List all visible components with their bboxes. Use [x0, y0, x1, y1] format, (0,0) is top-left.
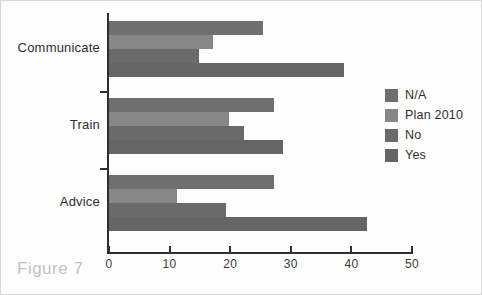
- bar-communicate-yes: [109, 63, 344, 77]
- legend-label: Yes: [405, 148, 426, 162]
- legend-swatch-icon: [385, 89, 398, 102]
- bar-advice-n-a: [109, 175, 274, 189]
- bar-advice-no: [109, 203, 226, 217]
- category-label-communicate: Communicate: [0, 40, 100, 55]
- legend-swatch-icon: [385, 109, 398, 122]
- legend-label: N/A: [405, 88, 426, 102]
- figure-container: 01020304050 CommunicateTrainAdvice N/APl…: [0, 0, 482, 295]
- bar-communicate-plan-2010: [109, 35, 213, 49]
- bar-advice-plan-2010: [109, 189, 177, 203]
- chart-legend: N/APlan 2010NoYes: [385, 86, 479, 166]
- bar-train-yes: [109, 140, 283, 154]
- x-axis-tick-label: 0: [89, 257, 129, 271]
- bar-train-no: [109, 126, 244, 140]
- legend-item-n-a: N/A: [385, 86, 479, 104]
- x-axis-tick: [169, 246, 171, 253]
- legend-label: No: [405, 128, 421, 142]
- bar-advice-yes: [109, 217, 367, 231]
- x-axis-tick-label: 30: [271, 257, 311, 271]
- bar-train-plan-2010: [109, 112, 229, 126]
- x-axis-tick-label: 20: [210, 257, 250, 271]
- bar-communicate-no: [109, 49, 199, 63]
- legend-swatch-icon: [385, 149, 398, 162]
- x-axis-tick: [290, 246, 292, 253]
- legend-item-plan-2010: Plan 2010: [385, 106, 479, 124]
- x-axis-tick: [411, 246, 413, 253]
- y-axis-group-separator: [100, 91, 108, 93]
- legend-label: Plan 2010: [405, 108, 463, 122]
- x-axis-tick-label: 10: [150, 257, 190, 271]
- legend-item-yes: Yes: [385, 146, 479, 164]
- x-axis-tick-label: 50: [392, 257, 432, 271]
- category-label-train: Train: [0, 117, 100, 132]
- x-axis-tick: [229, 246, 231, 253]
- legend-item-no: No: [385, 126, 479, 144]
- y-axis-group-separator: [100, 168, 108, 170]
- figure-caption: Figure 7: [17, 259, 83, 279]
- category-label-advice: Advice: [0, 194, 100, 209]
- bar-communicate-n-a: [109, 21, 263, 35]
- x-axis-tick-label: 40: [331, 257, 371, 271]
- bar-train-n-a: [109, 98, 274, 112]
- x-axis-tick: [108, 246, 110, 253]
- legend-swatch-icon: [385, 129, 398, 142]
- x-axis-tick: [350, 246, 352, 253]
- x-axis-line: [107, 252, 413, 254]
